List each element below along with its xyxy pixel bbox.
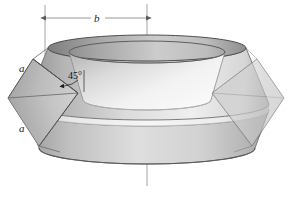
technical-illustration: 45° b a a <box>0 0 292 198</box>
ring-cross-section-figure: 45° b a a <box>0 0 292 198</box>
side-label-upper-a: a <box>19 62 25 74</box>
angle-label: 45° <box>68 70 82 81</box>
side-label-lower-a: a <box>19 122 25 134</box>
dimension-b-label: b <box>94 12 100 24</box>
